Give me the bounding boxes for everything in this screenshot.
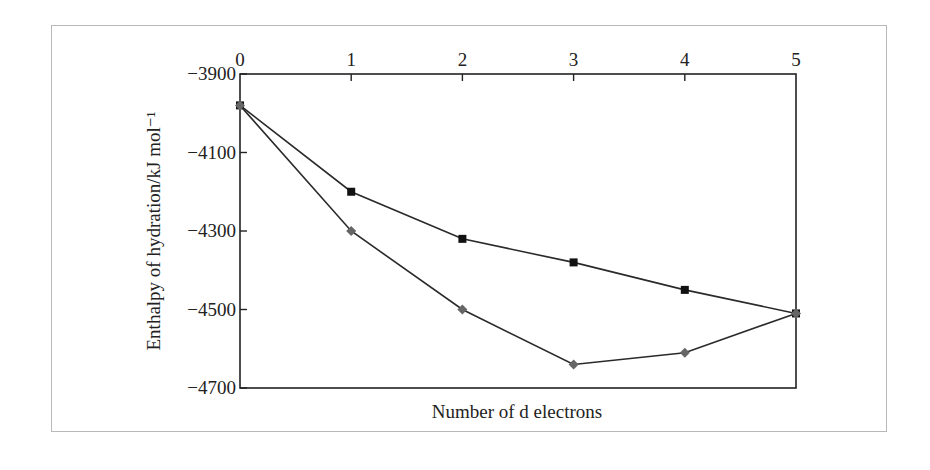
x-axis: 012345 xyxy=(235,49,801,81)
y-tick-label: −4100 xyxy=(187,142,236,163)
y-tick-label: −4300 xyxy=(187,220,236,241)
y-axis-title: Enthalpy of hydration/kJ mol⁻¹ xyxy=(143,111,164,350)
series-line-diamond xyxy=(240,105,796,364)
square-marker xyxy=(570,258,578,266)
y-tick-label: −4500 xyxy=(187,299,236,320)
x-tick-label: 2 xyxy=(458,49,468,70)
series-group xyxy=(235,100,801,369)
plot-area xyxy=(240,74,796,388)
diamond-marker xyxy=(680,348,690,358)
line-chart: 012345 −3900−4100−4300−4500−4700 Number … xyxy=(0,0,930,470)
y-tick-label: −3900 xyxy=(187,63,236,84)
plot-border xyxy=(240,74,796,388)
y-tick-label: −4700 xyxy=(187,377,236,398)
square-marker xyxy=(458,235,466,243)
diamond-marker xyxy=(569,359,579,369)
x-axis-title: Number of d electrons xyxy=(432,401,602,422)
x-tick-label: 4 xyxy=(680,49,690,70)
diamond-marker xyxy=(457,305,467,315)
series-line-square xyxy=(240,105,796,313)
x-tick-label: 0 xyxy=(235,49,245,70)
x-tick-label: 3 xyxy=(569,49,579,70)
x-tick-label: 1 xyxy=(346,49,356,70)
x-tick-label: 5 xyxy=(791,49,801,70)
y-axis: −3900−4100−4300−4500−4700 xyxy=(187,63,247,398)
square-marker xyxy=(681,286,689,294)
square-marker xyxy=(347,188,355,196)
